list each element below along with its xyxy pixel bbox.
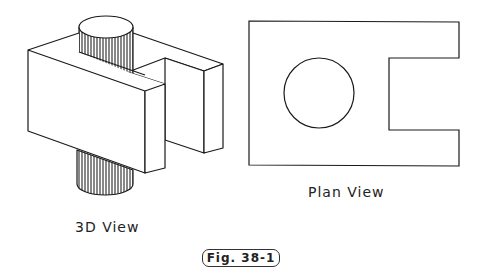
plan-view xyxy=(249,21,459,166)
block-side-face xyxy=(145,84,165,173)
caption-plan-view: Plan View xyxy=(308,184,384,200)
caption-3d-view: 3D View xyxy=(75,219,139,235)
figure-label: Fig. 38-1 xyxy=(202,249,280,267)
cylinder-top xyxy=(79,16,133,38)
isometric-3d-view xyxy=(28,16,223,195)
plan-hole xyxy=(284,58,354,128)
bracket-arm-front xyxy=(165,58,204,153)
bracket-arm-side xyxy=(204,64,223,153)
